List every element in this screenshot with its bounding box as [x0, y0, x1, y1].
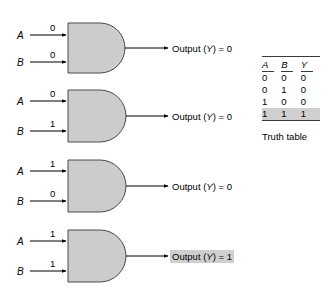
gate-2-input-b-value: 1	[50, 118, 55, 129]
truth-table-header-row: A B Y	[262, 59, 320, 72]
truth-table-header-b: B	[281, 59, 300, 72]
gate-1-output-label: Output (Y) = 0	[170, 42, 234, 55]
gate-2-input-b-label: B	[17, 126, 24, 137]
gate-3-output-prefix: Output (	[172, 181, 206, 192]
truth-table-cell: 0	[262, 84, 281, 96]
gate-3-output-label: Output (Y) = 0	[170, 180, 234, 193]
truth-table-top-rule	[262, 56, 320, 57]
gate-3-output-suffix: ) = 0	[213, 181, 232, 192]
table-row: 1 0 0	[262, 96, 320, 108]
gate-4-input-a-value: 1	[50, 228, 55, 239]
truth-table-header-y: Y	[301, 59, 320, 72]
circuit-drawing	[0, 0, 331, 298]
truth-table-cell: 1	[301, 108, 320, 120]
gate-4-output-suffix: ) = 1	[213, 251, 232, 262]
truth-table-bottom-rule	[262, 120, 320, 121]
truth-table-cell: 0	[301, 72, 320, 84]
gate-2-output-prefix: Output (	[172, 111, 206, 122]
gate-1-input-a-value: 0	[50, 22, 55, 33]
and-gate-diagram: A 0 B 0 Output (Y) = 0 A 0 B 1 Output (Y…	[0, 0, 331, 298]
gate-1-output-suffix: ) = 0	[213, 43, 232, 54]
truth-table-cell: 0	[281, 72, 300, 84]
truth-table-cell: 0	[281, 96, 300, 108]
gate-4-output-label: Output (Y) = 1	[170, 250, 234, 263]
gate-1-input-b-label: B	[17, 57, 24, 68]
gate-1-input-b-value: 0	[50, 49, 55, 60]
truth-table-cell: 0	[262, 72, 281, 84]
gate-1-input-a-label: A	[17, 30, 24, 41]
truth-table-header-b-text: B	[281, 59, 293, 72]
truth-table-caption: Truth table	[262, 131, 307, 142]
gate-4-input-a-label: A	[17, 236, 24, 247]
gate-2-input-a-value: 0	[50, 88, 55, 99]
gate-4-output-prefix: Output (	[172, 251, 206, 262]
gate-4-input-b-value: 1	[50, 258, 55, 269]
gate-1-output-prefix: Output (	[172, 43, 206, 54]
gate-2-output-label: Output (Y) = 0	[170, 110, 234, 123]
truth-table-header-y-text: Y	[301, 59, 313, 72]
truth-table-cell: 1	[262, 96, 281, 108]
truth-table-cell: 0	[301, 84, 320, 96]
truth-table-cell: 1	[281, 108, 300, 120]
truth-table-cell: 0	[301, 96, 320, 108]
truth-table: A B Y 0 0 0 0 1 0 1 0	[262, 56, 320, 121]
and-gate-shape-2	[68, 90, 126, 142]
table-row-highlighted: 1 1 1	[262, 108, 320, 120]
table-row: 0 0 0	[262, 72, 320, 84]
gate-3-input-a-value: 1	[50, 158, 55, 169]
truth-table-header-a: A	[262, 59, 281, 72]
truth-table-grid: A B Y 0 0 0 0 1 0 1 0	[262, 59, 320, 120]
and-gate-shape-4	[68, 230, 126, 282]
gate-3-input-b-label: B	[17, 196, 24, 207]
gate-3-input-a-label: A	[17, 166, 24, 177]
truth-table-header-a-text: A	[262, 59, 274, 72]
truth-table-cell: 1	[262, 108, 281, 120]
and-gate-shape-1	[68, 23, 125, 73]
gate-2-output-suffix: ) = 0	[213, 111, 232, 122]
gate-2-input-a-label: A	[17, 96, 24, 107]
gate-4-input-b-label: B	[17, 266, 24, 277]
gate-3-input-b-value: 0	[50, 188, 55, 199]
and-gate-shape-3	[68, 160, 126, 212]
truth-table-cell: 1	[281, 84, 300, 96]
table-row: 0 1 0	[262, 84, 320, 96]
